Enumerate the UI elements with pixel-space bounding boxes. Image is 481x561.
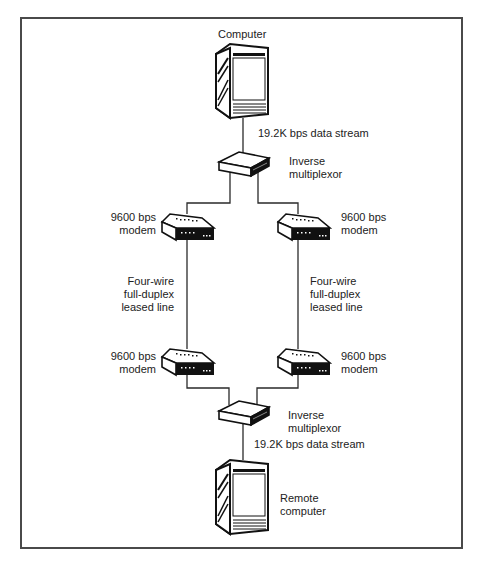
left-line-label: Four-wire full-duplex leased line (104, 275, 174, 314)
modem-top-left-label: 9600 bps modem (96, 211, 156, 237)
bottom-stream-label: 19.2K bps data stream (254, 438, 365, 451)
inverse-multiplexor-bottom-icon (219, 401, 269, 425)
top-stream-label: 19.2K bps data stream (258, 127, 369, 140)
modem-bottom-left-icon (162, 349, 214, 375)
modem-bottom-right-label: 9600 bps modem (341, 350, 386, 376)
modem-top-right-icon (278, 214, 330, 240)
remote-computer-label: Remote computer (280, 492, 326, 518)
modem-top-right-label: 9600 bps modem (341, 211, 386, 237)
computer-label: Computer (218, 28, 266, 41)
mux-top-label: Inverse multiplexor (289, 155, 342, 181)
modem-bottom-right-icon (278, 349, 330, 375)
mux-bottom-label: Inverse multiplexor (288, 409, 341, 435)
inverse-multiplexor-top-icon (219, 152, 269, 176)
computer-icon (216, 44, 268, 118)
remote-computer-icon (216, 460, 268, 534)
modem-bottom-left-label: 9600 bps modem (96, 350, 156, 376)
network-diagram (0, 0, 481, 561)
right-line-label: Four-wire full-duplex leased line (310, 275, 363, 314)
modem-top-left-icon (162, 214, 214, 240)
